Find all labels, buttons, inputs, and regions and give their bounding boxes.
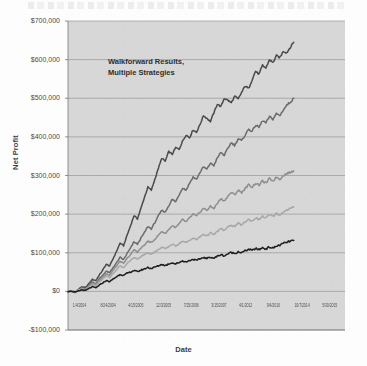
y-tick-label: $500,000: [4, 94, 60, 101]
y-tick-label: $400,000: [4, 133, 60, 140]
x-tick-label: 3/15/2007: [211, 303, 226, 308]
x-tick-label: 5/30/2015: [322, 303, 337, 308]
y-tick-label: $100,000: [4, 249, 60, 256]
x-tick-label: 4/15/2005: [128, 303, 143, 308]
x-tick-label: 9/4/2010: [267, 303, 280, 308]
x-tick-label: 10/7/2014: [294, 303, 309, 308]
x-tick-label: 12/3/2005: [156, 303, 171, 308]
annotation-line-2: Multiple Strategies: [108, 67, 184, 78]
y-tick-label: $600,000: [4, 56, 60, 63]
x-axis-title: Date: [0, 345, 367, 354]
x-tick-label: 7/25/2006: [184, 303, 199, 308]
y-tick-label: $700,000: [4, 17, 60, 24]
annotation-line-1: Walkforward Results,: [108, 56, 184, 67]
y-tick-label: $300,000: [4, 172, 60, 179]
x-tick-label: 1/4/2004: [73, 303, 86, 308]
x-tick-label: 8/24/2004: [101, 303, 116, 308]
y-tick-label: $0: [4, 287, 60, 294]
y-tick-label: $200,000: [4, 210, 60, 217]
x-tick-label: 4/1/2012: [239, 303, 252, 308]
chart-container: Net Profit Date Walkforward Results, Mul…: [0, 0, 367, 366]
chart-annotation: Walkforward Results, Multiple Strategies: [108, 56, 184, 78]
y-tick-label: -$100,000: [4, 326, 60, 333]
